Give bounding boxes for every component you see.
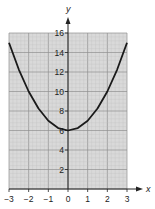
y-tick-label: 16 — [55, 28, 65, 38]
x-tick-label: −2 — [24, 194, 34, 204]
y-tick-label: 12 — [55, 67, 65, 77]
y-axis-label: y — [65, 4, 71, 14]
x-tick-label: 0 — [66, 194, 71, 204]
y-tick-label: 10 — [55, 87, 65, 97]
y-tick-label: 4 — [59, 145, 64, 155]
y-tick-label: 14 — [55, 48, 65, 58]
y-tick-label: 8 — [59, 106, 64, 116]
x-axis-arrow-icon — [136, 187, 143, 192]
y-tick-label: 2 — [59, 165, 64, 175]
x-tick-label: −3 — [4, 194, 14, 204]
parabola-chart: −3−2−10123246810121416 x y — [0, 0, 155, 209]
x-tick-label: 2 — [105, 194, 110, 204]
chart-svg: −3−2−10123246810121416 x y — [0, 0, 155, 209]
x-axis-label: x — [145, 184, 151, 194]
x-tick-label: 1 — [85, 194, 90, 204]
x-tick-label: 3 — [125, 194, 130, 204]
y-tick-label: 6 — [59, 126, 64, 136]
x-tick-label: −1 — [43, 194, 53, 204]
y-axis-arrow-icon — [66, 17, 71, 24]
